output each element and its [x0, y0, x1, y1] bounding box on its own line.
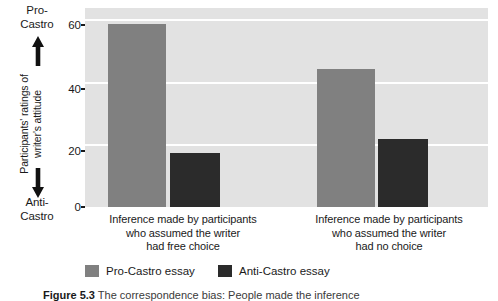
bar-group1-pro-castro	[108, 24, 166, 207]
legend-item-pro-castro[interactable]: Pro-Castro essay	[85, 263, 195, 279]
x-category-no-choice-line2: who assumed the writer	[294, 227, 484, 241]
figure-container: Pro- Castro Participants' ratings of wri…	[0, 0, 498, 301]
gridline-60	[85, 19, 488, 21]
y-axis-title-line1: Participants' ratings of	[18, 44, 31, 204]
x-category-free-choice-line1: Inference made by participants	[88, 213, 278, 227]
figure-caption: Figure 5.3 The correspondence bias: Peop…	[43, 289, 483, 301]
x-category-label-no-choice: Inference made by participants who assum…	[294, 213, 484, 254]
bar-group2-pro-castro	[317, 69, 375, 207]
figure-caption-text: The correspondence bias: People made the…	[98, 289, 360, 301]
bar-group1-anti-castro	[170, 153, 220, 207]
plot-area	[85, 8, 488, 207]
legend-item-anti-castro[interactable]: Anti-Castro essay	[218, 263, 330, 279]
bar-group2-anti-castro	[378, 139, 428, 207]
legend-label-pro-castro: Pro-Castro essay	[106, 265, 195, 277]
x-category-free-choice-line2: who assumed the writer	[88, 227, 278, 241]
legend-swatch-anti-castro-icon	[218, 265, 232, 277]
y-axis-pole-high-line1: Pro-	[8, 4, 66, 18]
x-category-no-choice-line1: Inference made by participants	[294, 213, 484, 227]
y-tick-label-20: 20	[55, 146, 81, 158]
arrow-down-icon	[31, 168, 45, 198]
y-tick-label-60: 60	[55, 20, 81, 32]
figure-caption-label: Figure 5.3	[43, 289, 95, 301]
y-tick-label-40: 40	[55, 84, 81, 96]
x-category-no-choice-line3: had no choice	[294, 240, 484, 254]
y-tick-label-0: 0	[55, 202, 81, 214]
legend-label-anti-castro: Anti-Castro essay	[239, 265, 330, 277]
x-category-label-free-choice: Inference made by participants who assum…	[88, 213, 278, 254]
x-category-free-choice-line3: had free choice	[88, 240, 278, 254]
legend-swatch-pro-castro-icon	[85, 265, 99, 277]
